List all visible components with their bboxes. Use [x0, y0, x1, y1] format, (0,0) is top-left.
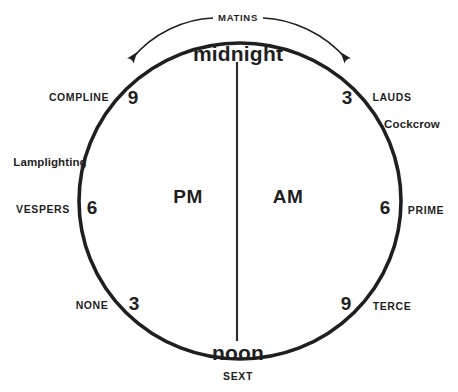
- office-label-compline: COMPLINE: [49, 92, 109, 103]
- hour-numeral-3-upper-right: 3: [342, 88, 353, 107]
- hour-numeral-3-lower-left: 3: [129, 294, 140, 313]
- am-half-label: AM: [273, 187, 304, 206]
- office-label-lauds: LAUDS: [372, 92, 411, 103]
- office-label-vespers: VESPERS: [16, 204, 70, 215]
- sext-label: SEXT: [223, 371, 253, 382]
- noon-label: noon: [212, 342, 264, 363]
- office-label-lamplighting: Lamplighting: [13, 157, 86, 169]
- hour-numeral-9-lower-right: 9: [341, 294, 352, 313]
- office-label-prime: PRIME: [408, 205, 444, 216]
- office-label-cockcrow: Cockcrow: [384, 119, 440, 131]
- hour-numeral-6-right: 6: [380, 198, 391, 217]
- matins-arc-label: MATINS: [218, 13, 258, 23]
- pm-half-label: PM: [173, 187, 203, 206]
- clock-diagram: MATINS midnight noon SEXT PM AM 9 3 6 6 …: [0, 0, 458, 392]
- office-label-none: NONE: [76, 300, 109, 311]
- hour-numeral-9-upper-left: 9: [128, 88, 139, 107]
- midnight-label: midnight: [193, 43, 283, 64]
- hour-numeral-6-left: 6: [87, 198, 98, 217]
- office-label-terce: TERCE: [373, 301, 412, 312]
